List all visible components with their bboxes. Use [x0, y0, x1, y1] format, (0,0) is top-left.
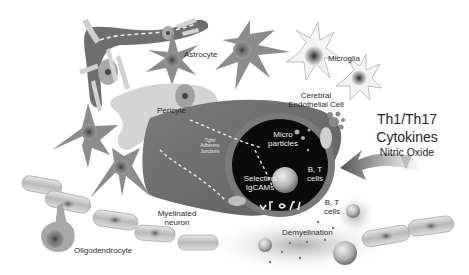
label-tight-junctions: Tight/ Adherens Junctions	[190, 138, 230, 154]
label-cerebral-endothelial: Cerebral Endothelial Cell	[276, 91, 356, 109]
label-bt-line1: B, T	[300, 165, 330, 174]
label-bt-line2: cells	[300, 174, 330, 183]
label-bt-outside-line2: cells	[318, 207, 346, 216]
label-tight-line3: Junctions	[190, 149, 230, 154]
label-microglia: Microglia	[328, 54, 360, 63]
label-myelinated-line1: Myelinated	[152, 209, 202, 218]
cerebral-vessel	[143, 100, 342, 217]
label-oligodendrocyte: Oligodendrocyte	[74, 246, 132, 255]
label-microparticles: Micro particles	[263, 130, 303, 148]
label-th1-th17: Th1/Th17	[362, 111, 452, 129]
label-nitric-oxide: Nitric Oxide	[362, 146, 452, 158]
label-astrocyte: Astrocyte	[184, 50, 217, 59]
label-cytokines-block: Th1/Th17 Cytokines Nitric Oxide	[362, 111, 452, 158]
label-cytokines: Cytokines	[362, 129, 452, 147]
bbb-diagram: Astrocyte Microglia Cerebral Endothelial…	[0, 0, 469, 275]
label-endothelial-line2: Endothelial Cell	[276, 100, 356, 109]
label-cerebral-line1: Cerebral	[276, 91, 356, 100]
label-selectins-line1: Selectins	[238, 174, 282, 183]
oligodendrocyte	[42, 204, 75, 252]
label-bt-outside-line1: B, T	[318, 198, 346, 207]
label-myelinated-neuron: Myelinated neuron	[152, 209, 202, 227]
label-pericyte: Pericyte	[157, 106, 186, 115]
label-particles-line2: particles	[263, 139, 303, 148]
label-igcams-line2: IgCAMs	[238, 183, 282, 192]
astrocyte-left-1	[52, 103, 118, 168]
label-bt-cells-lumen: B, T cells	[300, 165, 330, 183]
microglia-1	[286, 22, 340, 80]
label-micro-line1: Micro	[263, 130, 303, 139]
astrocyte-left-2	[90, 148, 150, 198]
astrocyte-right	[215, 20, 290, 90]
label-selectins-igcams: Selectins IgCAMs	[238, 174, 282, 192]
label-bt-cells-outside: B, T cells	[318, 198, 346, 216]
label-neuron-line2: neuron	[152, 218, 202, 227]
label-demyelination: Demyelination	[282, 228, 333, 237]
